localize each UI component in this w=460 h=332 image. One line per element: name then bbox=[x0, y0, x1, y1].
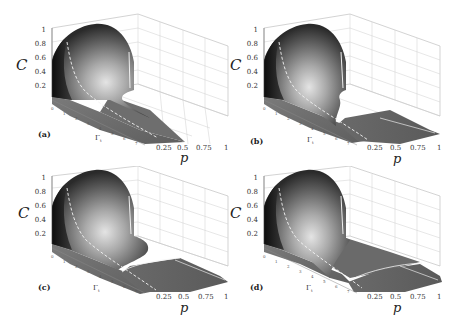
z-axis-label: C bbox=[18, 204, 30, 222]
svg-text:6: 6 bbox=[335, 284, 338, 289]
svg-text:0.8: 0.8 bbox=[35, 40, 46, 48]
svg-text:t: t bbox=[98, 288, 100, 293]
svg-text:1: 1 bbox=[42, 174, 46, 182]
svg-text:0.4: 0.4 bbox=[35, 216, 47, 224]
svg-text:t: t bbox=[311, 288, 313, 293]
x-axis-label: p bbox=[393, 151, 402, 166]
x-axis: 0.25 0.5 0.75 1 p bbox=[367, 293, 441, 315]
svg-text:2: 2 bbox=[287, 264, 290, 269]
svg-text:1: 1 bbox=[275, 259, 278, 264]
svg-text:0.8: 0.8 bbox=[247, 188, 258, 196]
svg-text:0.75: 0.75 bbox=[410, 293, 426, 301]
svg-text:0.2: 0.2 bbox=[247, 230, 258, 238]
panel-label: (b) bbox=[250, 136, 263, 146]
svg-text:0.25: 0.25 bbox=[156, 144, 172, 152]
x-axis: 0.25 0.5 0.75 1 p bbox=[156, 293, 228, 315]
panel-a: 1 0.8 0.6 0.4 0.2 C 0 1 2 3 4 5 6 7 Γ t … bbox=[0, 0, 230, 166]
svg-text:0.25: 0.25 bbox=[156, 293, 172, 301]
svg-text:1: 1 bbox=[275, 111, 278, 116]
svg-text:0: 0 bbox=[51, 106, 54, 111]
svg-text:0.6: 0.6 bbox=[247, 54, 259, 62]
z-axis-label: C bbox=[230, 56, 242, 74]
x-axis: 0.25 0.5 0.75 1 p bbox=[367, 144, 441, 166]
panel-label: (d) bbox=[250, 282, 263, 292]
svg-text:1: 1 bbox=[437, 293, 441, 301]
surface-plot-d: 1 0.8 0.6 0.4 0.2 C 0 1 2 3 4 5 6 7 Γ t … bbox=[230, 166, 460, 332]
svg-text:1: 1 bbox=[254, 174, 258, 182]
z-axis: 1 0.8 0.6 0.4 0.2 C bbox=[16, 26, 52, 97]
svg-text:0: 0 bbox=[51, 254, 54, 259]
z-axis-label: C bbox=[230, 204, 242, 222]
x-axis-label: p bbox=[393, 300, 402, 315]
svg-text:0.25: 0.25 bbox=[367, 293, 383, 301]
svg-text:0.75: 0.75 bbox=[196, 144, 212, 152]
surface-plot-c: 1 0.8 0.6 0.4 0.2 C 0 1 2 3 4 5 6 7 Γ t … bbox=[0, 166, 230, 332]
z-axis: 1 0.8 0.6 0.4 0.2 C bbox=[230, 26, 264, 97]
svg-text:0.6: 0.6 bbox=[247, 202, 259, 210]
svg-text:1: 1 bbox=[224, 144, 228, 152]
svg-text:4: 4 bbox=[311, 274, 314, 279]
svg-text:0.75: 0.75 bbox=[198, 293, 214, 301]
x-axis-label: p bbox=[180, 150, 189, 165]
x-axis-label: p bbox=[180, 300, 189, 315]
panel-c: 1 0.8 0.6 0.4 0.2 C 0 1 2 3 4 5 6 7 Γ t … bbox=[0, 166, 230, 332]
svg-text:1: 1 bbox=[63, 259, 66, 264]
svg-text:0: 0 bbox=[263, 106, 266, 111]
panel-label: (c) bbox=[38, 282, 51, 292]
panel-b: 1 0.8 0.6 0.4 0.2 C 0 1 2 3 4 5 6 7 Γ t … bbox=[230, 0, 460, 166]
panel-label: (a) bbox=[38, 129, 51, 139]
surface-plot-b: 1 0.8 0.6 0.4 0.2 C 0 1 2 3 4 5 6 7 Γ t … bbox=[230, 0, 460, 166]
svg-text:1: 1 bbox=[254, 26, 258, 34]
svg-text:0.25: 0.25 bbox=[367, 144, 383, 152]
svg-text:t: t bbox=[100, 138, 102, 143]
svg-text:0.2: 0.2 bbox=[247, 82, 258, 90]
panel-d: 1 0.8 0.6 0.4 0.2 C 0 1 2 3 4 5 6 7 Γ t … bbox=[230, 166, 460, 332]
svg-text:0.4: 0.4 bbox=[247, 216, 259, 224]
svg-text:7: 7 bbox=[135, 141, 138, 146]
svg-text:0.8: 0.8 bbox=[35, 188, 46, 196]
z-axis: 1 0.8 0.6 0.4 0.2 C bbox=[230, 174, 264, 244]
svg-text:0.8: 0.8 bbox=[247, 40, 258, 48]
svg-text:0.2: 0.2 bbox=[35, 82, 46, 90]
svg-text:1: 1 bbox=[437, 144, 441, 152]
svg-text:0.75: 0.75 bbox=[410, 144, 426, 152]
svg-text:t: t bbox=[312, 140, 314, 145]
svg-text:1: 1 bbox=[42, 26, 46, 34]
svg-text:5: 5 bbox=[323, 279, 326, 284]
svg-text:0: 0 bbox=[263, 254, 266, 259]
z-axis: 1 0.8 0.6 0.4 0.2 C bbox=[18, 174, 52, 244]
svg-text:0.2: 0.2 bbox=[35, 230, 46, 238]
z-axis-label: C bbox=[16, 56, 28, 74]
svg-text:0.4: 0.4 bbox=[247, 68, 259, 76]
svg-text:1: 1 bbox=[63, 111, 66, 116]
svg-text:0.4: 0.4 bbox=[35, 68, 47, 76]
svg-text:0.6: 0.6 bbox=[35, 54, 47, 62]
svg-text:1: 1 bbox=[224, 293, 228, 301]
svg-text:3: 3 bbox=[299, 269, 302, 274]
svg-text:7: 7 bbox=[347, 289, 350, 294]
svg-text:0.6: 0.6 bbox=[35, 202, 47, 210]
x-axis: 0.25 0.5 0.75 1 p bbox=[156, 144, 228, 165]
surface-plot-a: 1 0.8 0.6 0.4 0.2 C 0 1 2 3 4 5 6 7 Γ t … bbox=[0, 0, 230, 166]
